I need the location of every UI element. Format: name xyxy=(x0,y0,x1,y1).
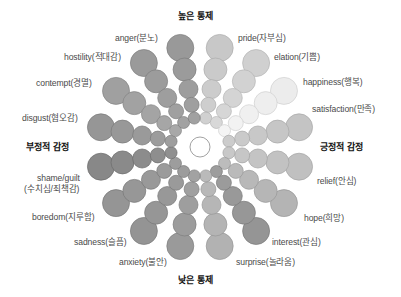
intensity-circle xyxy=(179,195,198,214)
intensity-circle xyxy=(248,149,267,168)
intensity-circle xyxy=(188,112,200,124)
intensity-circle xyxy=(157,116,172,131)
label-surprise: surprise(놀라움) xyxy=(236,257,295,267)
intensity-circle xyxy=(202,195,221,214)
intensity-circle xyxy=(266,120,289,143)
label-anxiety: anxiety(불안) xyxy=(119,257,167,267)
label-anger: anger(분노) xyxy=(115,33,158,43)
intensity-circle xyxy=(216,104,231,119)
label-happiness: happiness(행복) xyxy=(303,77,363,87)
label-satisfaction: satisfaction(만족) xyxy=(312,104,375,114)
intensity-circle xyxy=(286,153,313,180)
intensity-circle xyxy=(219,125,231,137)
label-contempt: contempt(경멸) xyxy=(36,78,92,88)
intensity-circle xyxy=(111,120,134,143)
intensity-circle xyxy=(150,131,165,146)
intensity-circle xyxy=(157,163,172,178)
intensity-circle xyxy=(201,182,216,197)
label-shame-line1: shame/guilt xyxy=(37,173,80,183)
intensity-circle xyxy=(235,131,250,146)
intensity-circle xyxy=(200,112,212,124)
label-hope: hope(희망) xyxy=(304,213,344,223)
intensity-circle xyxy=(167,233,194,260)
intensity-circle xyxy=(235,148,250,163)
intensity-circle xyxy=(204,58,227,81)
intensity-circle xyxy=(179,80,198,99)
intensity-circle xyxy=(184,97,199,112)
axis-label-negative-emotion: 부정적 감정 xyxy=(26,140,69,153)
intensity-circle xyxy=(165,147,177,159)
label-boredom: boredom(지루함) xyxy=(32,212,94,222)
axis-label-positive-emotion: 긍정적 감정 xyxy=(320,140,363,153)
intensity-circle xyxy=(167,34,194,61)
intensity-circle xyxy=(210,166,222,178)
label-shame-line2: (수치심/죄책감) xyxy=(24,184,79,194)
label-hostility: hostility(적대감) xyxy=(64,52,121,62)
intensity-circle xyxy=(206,34,233,61)
intensity-circle xyxy=(111,151,134,174)
axis-label-low-control: 낮은 통제 xyxy=(178,273,213,286)
label-disgust: disgust(혐오감) xyxy=(22,113,78,123)
intensity-circle xyxy=(223,147,235,159)
center-neutral-circle xyxy=(190,137,210,157)
intensity-circle xyxy=(200,170,212,182)
intensity-circle xyxy=(228,116,243,131)
intensity-circle xyxy=(133,126,152,145)
intensity-circle xyxy=(184,182,199,197)
intensity-circle xyxy=(201,97,216,112)
intensity-circle xyxy=(216,175,231,190)
intensity-circle xyxy=(248,126,267,145)
intensity-circle xyxy=(87,153,114,180)
intensity-circle xyxy=(188,170,200,182)
label-interest: interest(관심) xyxy=(272,237,321,247)
label-relief: relief(안심) xyxy=(317,176,356,186)
intensity-circle xyxy=(178,116,190,128)
label-elation: elation(기쁨) xyxy=(274,52,320,62)
intensity-circle xyxy=(204,213,227,236)
intensity-circle xyxy=(133,149,152,168)
intensity-circle xyxy=(223,135,235,147)
label-sadness: sadness(슬픔) xyxy=(74,237,127,247)
axis-label-high-control: 높은 통제 xyxy=(178,9,213,22)
intensity-circle xyxy=(266,151,289,174)
intensity-circle xyxy=(206,233,233,260)
intensity-circle xyxy=(169,104,184,119)
intensity-circle xyxy=(169,157,181,169)
intensity-circle xyxy=(150,148,165,163)
intensity-circle xyxy=(165,135,177,147)
intensity-circle xyxy=(173,58,196,81)
intensity-circle xyxy=(169,175,184,190)
intensity-circle xyxy=(87,114,114,141)
label-pride: pride(자부심) xyxy=(238,33,286,43)
intensity-circle xyxy=(173,213,196,236)
intensity-circle xyxy=(286,114,313,141)
intensity-circle xyxy=(228,163,243,178)
intensity-circle xyxy=(202,80,221,99)
